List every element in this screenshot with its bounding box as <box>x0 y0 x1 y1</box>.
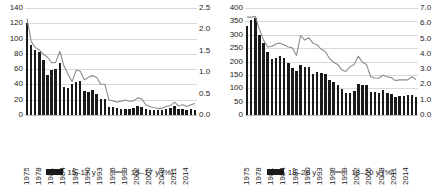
y-axis-tick-label: 250 <box>230 44 243 52</box>
y-axis-tick-label: 20 <box>14 96 23 104</box>
y2-axis-tick-label: 4.0 <box>420 50 431 58</box>
plot-wrapper: 020406080100120140 0.00.51.01.52.02.5 <box>0 0 220 128</box>
chart-legend: 15–17 y15–17 y (%) <box>0 165 220 179</box>
y-axis-tick-label: 100 <box>10 35 23 43</box>
legend-item[interactable]: 15–17 y <box>46 168 95 177</box>
y-axis-tick-label: 0 <box>239 111 243 119</box>
y2-axis-tick-label: 2.0 <box>420 80 431 88</box>
y-axis-tick-label: 100 <box>230 84 243 92</box>
y2-axis-tick-label: 2.5 <box>199 4 210 12</box>
dual-chart-figure: 020406080100120140 0.00.51.01.52.02.5 19… <box>0 0 441 185</box>
legend-item[interactable]: 18–20 y (%) <box>330 168 394 177</box>
y-axis-tick-label: 60 <box>14 65 23 73</box>
chart-legend: 18–20 y18–20 y (%) <box>220 165 441 179</box>
line-series <box>25 8 197 115</box>
gridline <box>245 115 418 116</box>
y-axis-tick-label: 150 <box>230 71 243 79</box>
legend-item[interactable]: 18–20 y <box>267 168 316 177</box>
y-axis-tick-label: 300 <box>230 31 243 39</box>
y2-axis-tick-label: 3.0 <box>420 65 431 73</box>
right-axis-tick-labels: 0.00.51.01.52.02.5 <box>196 0 220 128</box>
y-axis-tick-label: 200 <box>230 58 243 66</box>
plot-area <box>245 8 418 115</box>
chart-panel-18-20: 050100150200250300350400 0.01.02.03.04.0… <box>220 0 441 185</box>
y2-axis-tick-label: 1.0 <box>199 68 210 76</box>
y2-axis-tick-label: 1.5 <box>199 47 210 55</box>
y2-axis-tick-label: 0.0 <box>420 111 431 119</box>
plot-area <box>25 8 197 115</box>
chart-panel-15-17: 020406080100120140 0.00.51.01.52.02.5 19… <box>0 0 220 185</box>
y-axis-tick-label: 80 <box>14 50 23 58</box>
legend-bar-swatch <box>267 169 284 175</box>
y2-axis-tick-label: 7.0 <box>420 4 431 12</box>
left-axis-tick-labels: 050100150200250300350400 <box>220 0 246 128</box>
y-axis-tick-label: 120 <box>10 19 23 27</box>
plot-wrapper: 050100150200250300350400 0.01.02.03.04.0… <box>220 0 441 128</box>
percent-line <box>247 16 416 80</box>
legend-label: 18–20 y (%) <box>351 168 394 177</box>
y2-axis-tick-label: 5.0 <box>420 35 431 43</box>
line-series <box>245 8 418 115</box>
legend-item[interactable]: 15–17 y (%) <box>110 168 174 177</box>
legend-label: 15–17 y <box>67 168 95 177</box>
y2-axis-tick-label: 0.0 <box>199 111 210 119</box>
y-axis-tick-label: 350 <box>230 17 243 25</box>
y2-axis-tick-label: 6.0 <box>420 19 431 27</box>
legend-label: 15–17 y (%) <box>131 168 174 177</box>
right-axis-tick-labels: 0.01.02.03.04.05.06.07.0 <box>417 0 441 128</box>
gridline <box>25 115 197 116</box>
y-axis-tick-label: 400 <box>230 4 243 12</box>
legend-label: 18–20 y <box>288 168 316 177</box>
legend-line-swatch <box>330 171 347 173</box>
y-axis-tick-label: 0 <box>19 111 23 119</box>
y2-axis-tick-label: 0.5 <box>199 90 210 98</box>
percent-line <box>27 19 195 109</box>
y-axis-tick-label: 40 <box>14 80 23 88</box>
y2-axis-tick-label: 2.0 <box>199 25 210 33</box>
y-axis-tick-label: 50 <box>234 98 243 106</box>
left-axis-tick-labels: 020406080100120140 <box>0 0 26 128</box>
legend-line-swatch <box>110 171 127 173</box>
y2-axis-tick-label: 1.0 <box>420 96 431 104</box>
legend-bar-swatch <box>46 169 63 175</box>
y-axis-tick-label: 140 <box>10 4 23 12</box>
